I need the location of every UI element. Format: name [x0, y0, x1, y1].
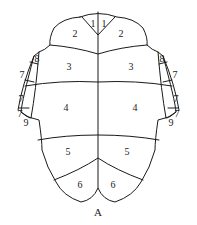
label-left-9: 9 [24, 117, 29, 128]
label-left-7a: 7 [20, 69, 25, 80]
label-right-7b: 7 [174, 93, 179, 104]
label-right-3: 3 [129, 61, 134, 72]
label-right-2: 2 [119, 28, 124, 39]
label-left-5: 5 [66, 146, 71, 157]
label-right-1: 1 [102, 18, 107, 29]
label-right-5: 5 [125, 146, 130, 157]
left-seam-7a [25, 80, 34, 82]
label-left-8: 8 [35, 53, 40, 64]
figure-caption: A [94, 206, 102, 218]
label-right-6: 6 [111, 179, 116, 190]
label-left-7b: 7 [19, 93, 24, 104]
label-left-4: 4 [64, 102, 69, 113]
label-left-2: 2 [73, 28, 78, 39]
label-left-7c: 7 [18, 108, 23, 119]
right-seam-7a [163, 80, 172, 82]
label-left-3: 3 [67, 61, 72, 72]
label-right-7c: 7 [175, 108, 180, 119]
label-right-7a: 7 [173, 69, 178, 80]
label-right-8: 8 [160, 53, 165, 64]
label-left-6: 6 [78, 179, 83, 190]
label-left-1: 1 [91, 18, 96, 29]
plastron-diagram: 1 2 3 4 5 6 8 7 7 7 9 1 2 3 4 5 6 8 7 7 … [0, 0, 197, 225]
label-right-4: 4 [133, 102, 138, 113]
label-right-9: 9 [169, 117, 174, 128]
